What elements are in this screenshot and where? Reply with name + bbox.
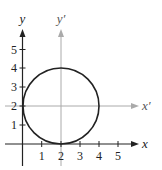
x-tick-1: 1 xyxy=(39,149,45,163)
y-prime-axis-label: y′ xyxy=(55,11,66,26)
x-arrow-icon xyxy=(131,141,139,147)
y-tick-labels: 1 2 3 4 5 xyxy=(11,43,17,133)
y-arrow-icon xyxy=(20,29,26,37)
y-axis-label: y xyxy=(18,11,26,26)
y-tick-3: 3 xyxy=(11,80,17,94)
y-prime-arrow-icon xyxy=(58,29,64,37)
y-tick-4: 4 xyxy=(11,61,17,75)
x-prime-axis-label: x′ xyxy=(141,98,151,113)
x-axis-label: x xyxy=(141,136,148,151)
original-axes xyxy=(5,29,139,166)
x-tick-labels: 1 2 3 4 5 xyxy=(39,149,121,163)
x-tick-3: 3 xyxy=(77,149,83,163)
y-tick-2: 2 xyxy=(11,99,17,113)
x-tick-4: 4 xyxy=(96,149,102,163)
x-tick-5: 5 xyxy=(115,149,121,163)
x-prime-arrow-icon xyxy=(131,103,139,109)
x-tick-2: 2 xyxy=(58,149,64,163)
coordinate-diagram: 1 2 3 4 5 1 2 3 4 5 y y′ x x′ xyxy=(0,0,162,170)
y-tick-1: 1 xyxy=(11,118,17,132)
y-tick-5: 5 xyxy=(11,43,17,57)
